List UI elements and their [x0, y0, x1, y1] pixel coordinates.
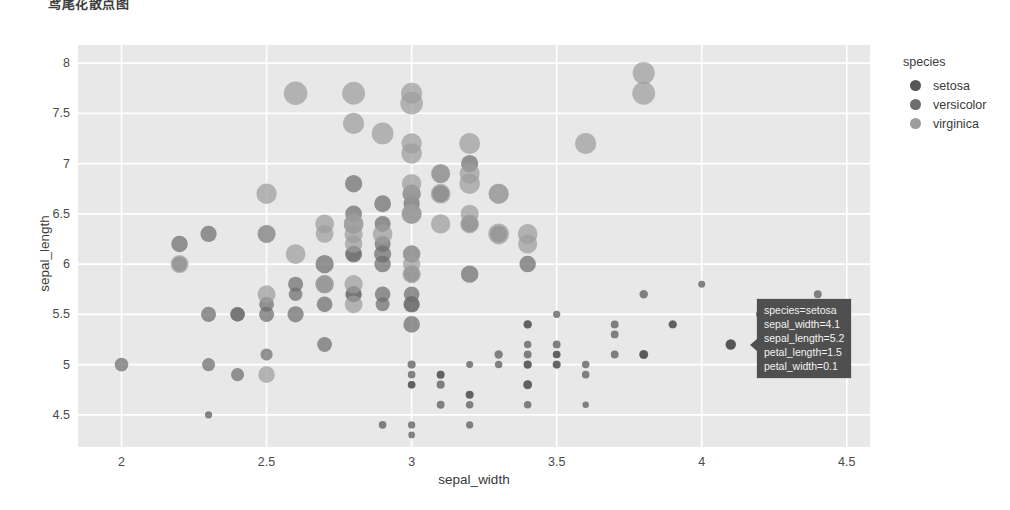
data-point[interactable]	[488, 223, 509, 244]
data-point[interactable]	[524, 401, 532, 409]
data-point[interactable]	[315, 255, 333, 273]
data-point[interactable]	[575, 133, 596, 154]
data-point[interactable]	[669, 321, 676, 328]
data-point[interactable]	[401, 83, 422, 104]
data-point[interactable]	[518, 234, 537, 253]
data-point[interactable]	[200, 226, 216, 242]
data-point[interactable]	[231, 368, 244, 381]
data-point[interactable]	[230, 307, 244, 321]
data-point[interactable]	[611, 331, 619, 339]
data-point[interactable]	[489, 184, 509, 204]
data-point[interactable]	[343, 113, 364, 134]
data-point[interactable]	[171, 236, 188, 253]
data-point[interactable]	[466, 361, 473, 368]
data-point[interactable]	[553, 341, 561, 349]
scatter-plot[interactable]	[78, 45, 870, 447]
data-point[interactable]	[437, 371, 445, 379]
data-point[interactable]	[639, 290, 647, 298]
data-point[interactable]	[342, 82, 365, 105]
data-point[interactable]	[611, 320, 619, 328]
data-point[interactable]	[317, 337, 332, 352]
data-point[interactable]	[258, 285, 276, 303]
series-setosa[interactable]	[205, 281, 822, 439]
data-point[interactable]	[316, 225, 334, 243]
data-point[interactable]	[205, 411, 212, 418]
data-point[interactable]	[459, 133, 480, 154]
hovered-data-point[interactable]	[726, 339, 736, 349]
data-point[interactable]	[115, 358, 129, 372]
data-point[interactable]	[408, 432, 415, 439]
data-point[interactable]	[171, 255, 189, 273]
data-point[interactable]	[633, 62, 655, 84]
data-point[interactable]	[403, 316, 420, 333]
data-point[interactable]	[640, 350, 648, 358]
data-point[interactable]	[611, 351, 619, 359]
data-point[interactable]	[632, 82, 655, 105]
data-point[interactable]	[524, 361, 532, 369]
data-point[interactable]	[287, 306, 303, 322]
data-point[interactable]	[374, 195, 391, 212]
data-point[interactable]	[344, 275, 362, 293]
data-point[interactable]	[553, 361, 561, 369]
data-point[interactable]	[408, 381, 416, 389]
data-point[interactable]	[202, 358, 215, 371]
data-point[interactable]	[553, 351, 561, 359]
data-point[interactable]	[431, 214, 450, 233]
data-point[interactable]	[315, 275, 333, 293]
data-point[interactable]	[408, 371, 416, 379]
legend-item-versicolor[interactable]: versicolor	[903, 95, 1007, 114]
data-point[interactable]	[375, 286, 391, 302]
data-point[interactable]	[402, 184, 421, 203]
data-point[interactable]	[582, 361, 590, 369]
data-point[interactable]	[459, 173, 480, 194]
data-point[interactable]	[259, 307, 274, 322]
data-point[interactable]	[402, 205, 421, 224]
data-point[interactable]	[437, 381, 445, 389]
data-point[interactable]	[466, 401, 474, 409]
data-point[interactable]	[461, 265, 478, 282]
data-point[interactable]	[284, 81, 308, 105]
data-point[interactable]	[344, 225, 362, 243]
data-point[interactable]	[201, 307, 216, 322]
data-point[interactable]	[814, 290, 822, 298]
series-virginica[interactable]	[171, 62, 656, 383]
data-point[interactable]	[374, 256, 391, 273]
data-point[interactable]	[466, 391, 474, 399]
data-point[interactable]	[582, 402, 588, 408]
data-point[interactable]	[317, 296, 333, 312]
data-point[interactable]	[258, 366, 275, 383]
data-point[interactable]	[408, 361, 416, 369]
data-point[interactable]	[373, 224, 393, 244]
data-point[interactable]	[524, 341, 532, 349]
data-point[interactable]	[258, 225, 276, 243]
data-point[interactable]	[288, 277, 303, 292]
data-point[interactable]	[379, 421, 387, 429]
data-point[interactable]	[401, 133, 421, 153]
data-point[interactable]	[582, 371, 590, 379]
data-point[interactable]	[524, 320, 532, 328]
data-point[interactable]	[437, 401, 445, 409]
data-point[interactable]	[524, 351, 532, 359]
data-point[interactable]	[460, 214, 479, 233]
data-point[interactable]	[345, 175, 362, 192]
data-point[interactable]	[345, 295, 363, 313]
data-point[interactable]	[256, 184, 276, 204]
data-point[interactable]	[466, 421, 473, 428]
data-point[interactable]	[408, 421, 415, 428]
data-point[interactable]	[431, 164, 449, 182]
data-point[interactable]	[523, 380, 532, 389]
legend-item-setosa[interactable]: setosa	[903, 76, 1007, 95]
data-point[interactable]	[286, 244, 306, 264]
data-point[interactable]	[495, 361, 503, 369]
data-point[interactable]	[553, 311, 560, 318]
data-point[interactable]	[698, 281, 705, 288]
data-point[interactable]	[404, 286, 420, 302]
legend[interactable]: species setosa versicolor virginica	[903, 55, 1007, 133]
data-point[interactable]	[431, 184, 451, 204]
legend-item-virginica[interactable]: virginica	[903, 114, 1007, 133]
data-point[interactable]	[494, 350, 502, 358]
data-point[interactable]	[519, 256, 536, 273]
data-points-layer[interactable]	[78, 45, 870, 447]
data-point[interactable]	[372, 123, 394, 145]
data-point[interactable]	[402, 265, 420, 283]
